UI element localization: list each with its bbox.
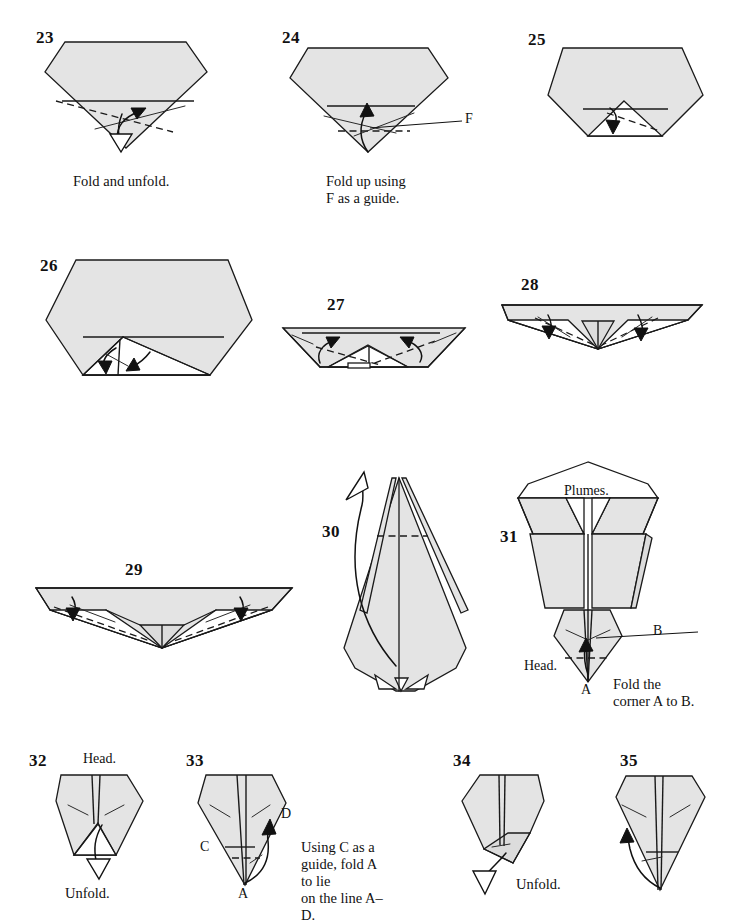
step-24-figure <box>250 0 500 170</box>
step-23: 23 Fold and unfold. <box>0 0 250 220</box>
center-spine-right <box>504 775 505 846</box>
body-left <box>530 534 584 608</box>
step-26: 26 <box>0 240 290 395</box>
step-24-caption: Fold up using F as a guide. <box>326 173 406 207</box>
step-32-label-head: Head. <box>83 751 116 767</box>
step-27: 27 <box>280 285 500 395</box>
step-27-figure <box>280 285 500 395</box>
step-33-caption: Using C as a guide, fold A to lie on the… <box>301 839 390 924</box>
step-34: 34 Unfold. <box>440 745 610 913</box>
step-31-caption: Fold the corner A to B. <box>613 676 694 710</box>
step-28-figure <box>490 265 745 380</box>
step-34-figure <box>440 745 610 895</box>
turn-over-arrow-head <box>346 472 368 500</box>
step-33-label-C: C <box>200 839 209 855</box>
center-spine-left <box>499 775 500 845</box>
unfold-arrow-head <box>87 859 110 879</box>
paper-shape <box>45 42 207 148</box>
step-25: 25 <box>500 0 748 220</box>
paper-shape <box>344 478 466 691</box>
step-33-label-A: A <box>238 886 248 902</box>
step-31: 31 Plumes. B Head. A Fold the <box>500 450 748 720</box>
step-32-caption: Unfold. <box>65 885 110 902</box>
step-33: 33 D C A Using C as a guide, fold A to l… <box>170 745 390 913</box>
step-23-figure <box>0 0 250 170</box>
unfold-arrow-head <box>473 871 496 894</box>
step-33-label-D: D <box>281 806 291 822</box>
step-30: 30 <box>300 410 500 710</box>
step-25-figure <box>500 0 748 170</box>
paper-shape <box>290 48 448 152</box>
step-35-figure <box>600 745 748 900</box>
step-35: 35 <box>600 745 748 913</box>
step-31-label-A: A <box>581 682 591 698</box>
step-26-figure <box>0 240 290 395</box>
step-34-caption: Unfold. <box>516 876 561 893</box>
step-24: 24 F Fold up using F as a guide. <box>250 0 500 220</box>
step-29-figure <box>10 545 310 665</box>
step-23-caption: Fold and unfold. <box>73 173 169 190</box>
step-31-label-head: Head. <box>524 658 557 674</box>
step-24-label-F: F <box>465 111 473 127</box>
step-28: 28 <box>490 265 745 380</box>
step-31-label-plumes: Plumes. <box>564 483 609 499</box>
step-29: 29 <box>10 545 310 665</box>
step-31-label-B: B <box>653 623 662 639</box>
small-tab <box>348 363 370 368</box>
step-30-figure <box>300 410 500 710</box>
step-32: 32 Head. Unfold. <box>20 745 195 913</box>
